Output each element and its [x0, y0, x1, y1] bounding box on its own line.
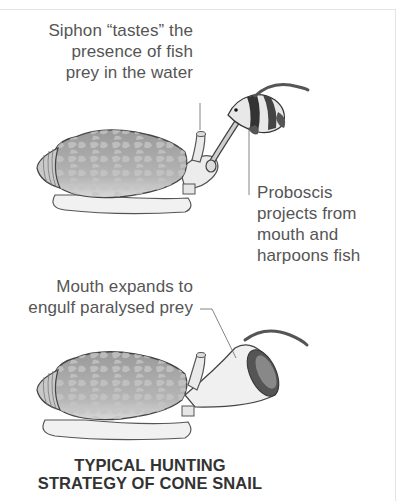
- siphon-label-line-2: presence of fish: [20, 41, 193, 62]
- mouth-label-line-1: Mouth expands to: [10, 276, 193, 297]
- mouth-label-line-2: engulf paralysed prey: [10, 297, 193, 318]
- proboscis-label-line-3: mouth and: [257, 224, 397, 245]
- proboscis-label-line-4: harpoons fish: [257, 245, 397, 266]
- title-line-2: STRATEGY OF CONE SNAIL: [0, 474, 300, 492]
- mouth-leader-line: [200, 309, 236, 358]
- siphon-label-line-3: prey in the water: [20, 62, 193, 83]
- proboscis-label: Proboscis projects from mouth and harpoo…: [257, 182, 397, 266]
- proboscis-label-line-1: Proboscis: [257, 182, 397, 203]
- mouth-label: Mouth expands to engulf paralysed prey: [10, 276, 193, 318]
- diagram-title: TYPICAL HUNTING STRATEGY OF CONE SNAIL: [0, 456, 300, 492]
- title-line-1: TYPICAL HUNTING: [0, 456, 300, 474]
- snail-engulfing-illustration: [37, 309, 307, 440]
- fish-prey-icon: [228, 84, 308, 134]
- siphon-label: Siphon “tastes” the presence of fish pre…: [20, 20, 193, 83]
- proboscis-label-line-2: projects from: [257, 203, 397, 224]
- siphon-label-line-1: Siphon “tastes” the: [20, 20, 193, 41]
